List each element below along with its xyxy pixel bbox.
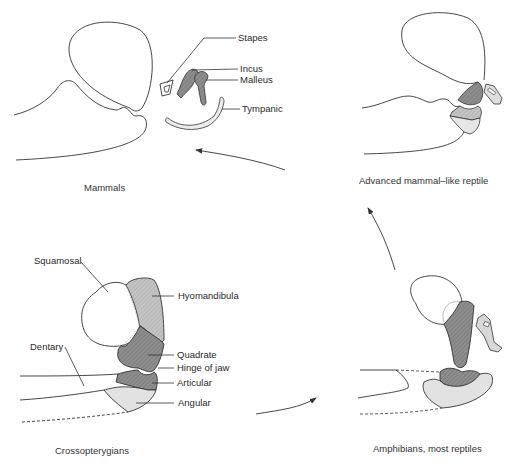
label-malleus: Malleus <box>240 75 273 85</box>
label-stapes: Stapes <box>238 33 268 43</box>
arrow-advanced-reptile-to-mammal <box>196 150 285 170</box>
label-quadrate: Quadrate <box>177 350 217 360</box>
label-articular: Articular <box>177 378 212 388</box>
label-tympanic: Tympanic <box>242 104 283 114</box>
caption-crossopterygians: Crossopterygians <box>55 446 129 456</box>
arrow-amphibian-to-advanced-reptile <box>368 208 395 270</box>
caption-advanced-mammal-like-reptile: Advanced mammal–like reptile <box>359 176 488 186</box>
label-incus: Incus <box>240 64 263 74</box>
label-dentary: Dentary <box>30 342 63 352</box>
mammal-ear-ossicles <box>160 69 224 129</box>
caption-amphibians-most-reptiles: Amphibians, most reptiles <box>373 444 482 454</box>
label-squamosal: Squamosal <box>34 256 82 266</box>
mammal-skull-drawing <box>14 22 152 160</box>
label-hyomandibula: Hyomandibula <box>178 291 239 301</box>
amphibian-reptile-drawing <box>358 276 502 414</box>
label-hinge-of-jaw: Hinge of jaw <box>177 363 229 373</box>
arrow-crossopterygian-to-amphibian <box>256 398 316 414</box>
advanced-reptile-jaw-bones <box>450 82 502 134</box>
label-angular: Angular <box>178 398 211 408</box>
caption-mammals: Mammals <box>84 183 125 193</box>
